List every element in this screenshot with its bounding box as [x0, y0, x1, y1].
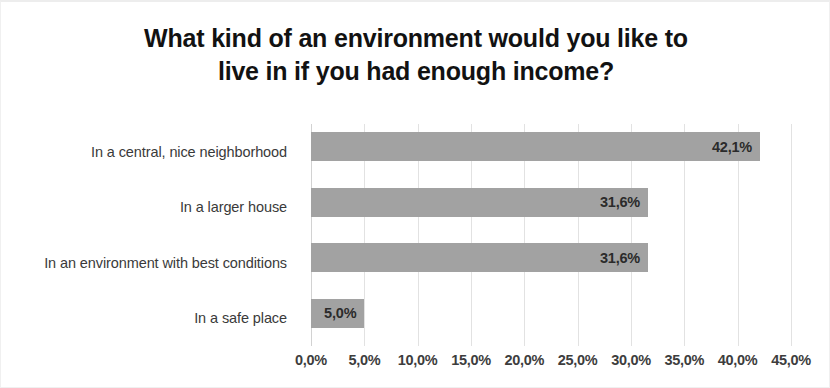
category-label: In an environment with best conditions [1, 235, 299, 291]
bar-row: 5,0% [311, 291, 791, 347]
gridline [791, 124, 792, 346]
x-tick-label: 20,0% [505, 352, 545, 368]
category-label: In a larger house [1, 180, 299, 236]
x-tick-label: 10,0% [398, 352, 438, 368]
x-tick-label: 40,0% [718, 352, 758, 368]
category-label: In a safe place [1, 291, 299, 347]
bar-row: 42,1% [311, 124, 791, 180]
bar-value-label: 5,0% [324, 305, 356, 321]
bar[interactable]: 31,6% [311, 243, 648, 272]
chart-container: What kind of an environment would you li… [0, 0, 830, 388]
bar[interactable]: 31,6% [311, 188, 648, 217]
bars-layer: 42,1%31,6%31,6%5,0% [311, 124, 791, 346]
x-axis-tick-labels: 0,0%5,0%10,0%15,0%20,0%25,0%30,0%35,0%40… [311, 352, 791, 376]
y-axis-category-labels: In a central, nice neighborhoodIn a larg… [1, 124, 299, 346]
x-tick-label: 5,0% [348, 352, 380, 368]
category-label: In a central, nice neighborhood [1, 124, 299, 180]
bar-value-label: 31,6% [600, 194, 640, 210]
x-tick-label: 45,0% [771, 352, 811, 368]
bar[interactable]: 5,0% [311, 299, 364, 328]
bar-row: 31,6% [311, 180, 791, 236]
bar-value-label: 31,6% [600, 250, 640, 266]
x-tick-label: 25,0% [558, 352, 598, 368]
x-tick-label: 30,0% [611, 352, 651, 368]
bar[interactable]: 42,1% [311, 132, 760, 161]
plot-area: 42,1%31,6%31,6%5,0% [311, 124, 791, 346]
chart-title: What kind of an environment would you li… [1, 22, 830, 88]
chart-title-line-1: What kind of an environment would you li… [1, 22, 830, 55]
chart-title-line-2: live in if you had enough income? [1, 55, 830, 88]
x-tick-label: 15,0% [451, 352, 491, 368]
x-tick-label: 0,0% [295, 352, 327, 368]
x-tick-label: 35,0% [665, 352, 705, 368]
bar-value-label: 42,1% [712, 139, 752, 155]
bar-row: 31,6% [311, 235, 791, 291]
